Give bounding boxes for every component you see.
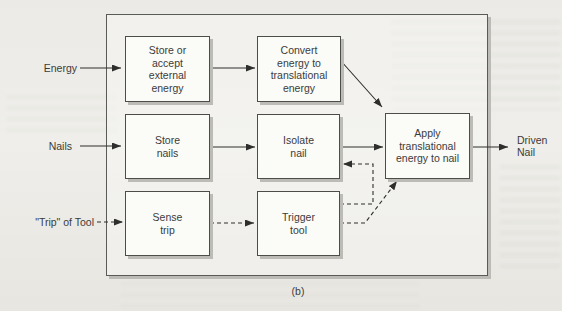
function-box-label: Apply translational energy to nail: [396, 127, 459, 165]
function-box-store-nails: Store nails: [125, 114, 210, 179]
function-box-label: Sense trip: [153, 211, 183, 236]
function-box-label: Trigger tool: [282, 211, 315, 236]
function-box-convert-energy: Convert energy to translational energy: [257, 36, 341, 102]
arrow-trigger-to-isolate: [340, 164, 373, 204]
input-label-nails: Nails: [20, 140, 72, 152]
function-box-label: Store nails: [155, 134, 180, 159]
arrow-convert-to-apply: [341, 61, 382, 107]
function-box-isolate-nail: Isolate nail: [257, 114, 340, 179]
function-box-label: Convert energy to translational energy: [271, 44, 328, 94]
output-label-driven-nail: Driven Nail: [517, 134, 561, 158]
input-label-trip-of-tool: "Trip" of Tool: [10, 216, 94, 228]
function-box-label: Store or accept external energy: [149, 44, 186, 94]
scanned-figure-page: Store or accept external energy Convert …: [0, 0, 562, 311]
subfigure-caption: (b): [281, 285, 315, 297]
function-box-store-energy: Store or accept external energy: [125, 36, 210, 102]
function-box-label: Isolate nail: [283, 134, 314, 159]
input-label-energy: Energy: [20, 62, 77, 74]
function-box-sense-trip: Sense trip: [125, 191, 210, 256]
arrow-trigger-to-apply: [340, 181, 397, 223]
function-box-trigger-tool: Trigger tool: [257, 191, 340, 256]
function-box-apply-energy: Apply translational energy to nail: [385, 113, 470, 179]
